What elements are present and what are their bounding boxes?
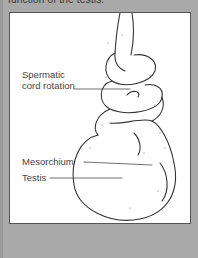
- label-testis: Testis: [22, 172, 46, 183]
- figure-caption: function of the testis.: [8, 0, 104, 5]
- label-line-1: Spermatic: [22, 69, 75, 80]
- label-line-2: cord rotation: [22, 80, 75, 91]
- label-mesorchium: Mesorchium: [22, 156, 74, 167]
- label-spermatic-cord-rotation: Spermatic cord rotation: [22, 69, 75, 91]
- testis-drawing: [10, 13, 192, 225]
- page-edge-strip: [0, 0, 3, 258]
- testis-illustration: Spermatic cord rotation Mesorchium Testi…: [9, 12, 191, 224]
